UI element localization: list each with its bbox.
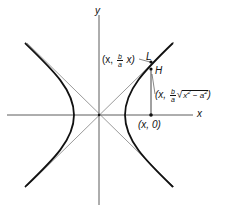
y-axis-label: y	[95, 6, 100, 16]
hyperbola-diagram	[0, 0, 228, 207]
point-base	[149, 113, 153, 117]
x-axis-label: x	[197, 109, 202, 119]
label-L: L	[146, 52, 152, 62]
point-H	[149, 67, 152, 70]
label-H-coord: (x, ba√x2 − a2)	[155, 88, 211, 103]
origin	[98, 114, 100, 116]
label-L-coord: (x, ba x)	[102, 53, 135, 68]
label-H: H	[155, 66, 162, 76]
label-base-coord: (x, 0)	[138, 120, 161, 130]
